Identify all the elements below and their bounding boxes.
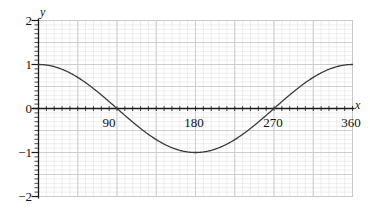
x-tick-label-360: 360	[331, 116, 370, 129]
y-tick-label-minus-1: −1	[1, 146, 32, 159]
y-tick-label-0: 0	[4, 102, 32, 115]
x-axis-name: x	[355, 99, 360, 111]
y-tick-label-1: 1	[4, 58, 32, 71]
y-axis-name: y	[40, 6, 45, 18]
cosine-graph-plot	[0, 0, 370, 212]
y-tick-label-minus-2: −2	[1, 190, 32, 203]
chart-figure: 2 1 0 −1 −2 90 180 270 360 x y	[0, 0, 370, 212]
x-tick-label-180: 180	[174, 116, 214, 129]
y-tick-label-2: 2	[4, 14, 32, 27]
x-tick-label-270: 270	[253, 116, 293, 129]
x-tick-label-90: 90	[94, 116, 124, 129]
